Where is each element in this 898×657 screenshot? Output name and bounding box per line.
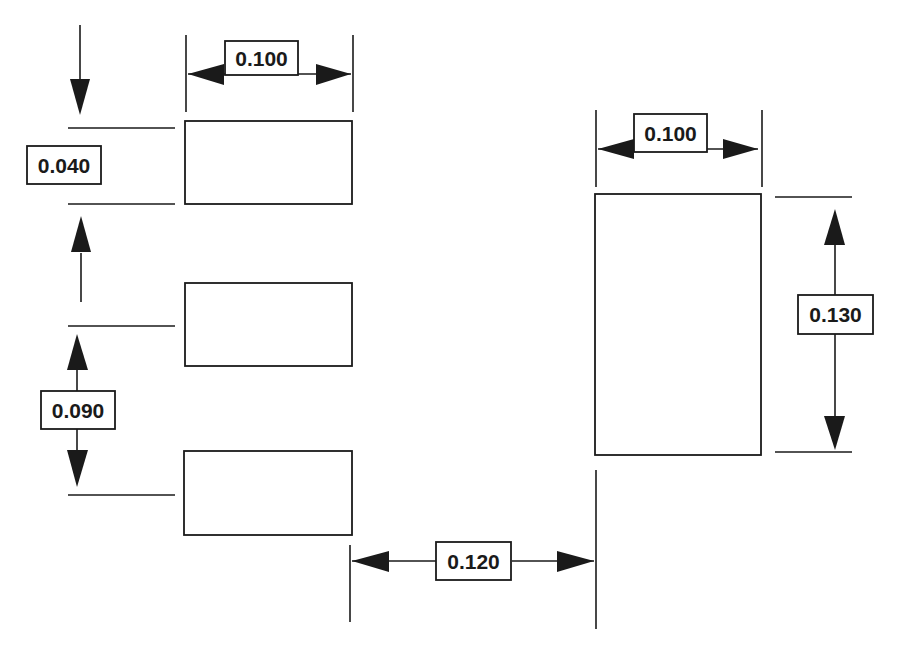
right-pad-height-dimension: 0.130 — [775, 197, 873, 452]
left-pad-3 — [184, 451, 352, 535]
arrow-up-icon — [71, 216, 91, 252]
right-pad-width-label: 0.100 — [644, 122, 697, 145]
arrow-left-icon — [598, 139, 634, 159]
pad-layout-diagram: 0.100 0.040 0.090 0.100 — [0, 0, 898, 657]
arrow-down-icon — [824, 416, 845, 450]
pad-gap-dimension: 0.120 — [350, 470, 596, 629]
left-pad-pitch-label: 0.090 — [52, 399, 105, 422]
arrow-right-icon — [723, 139, 758, 159]
arrow-down-icon — [67, 450, 88, 487]
left-pad-1 — [185, 121, 352, 204]
arrow-left-icon — [188, 64, 224, 85]
left-pad-pitch-dimension: 0.090 — [41, 326, 175, 495]
right-pad-width-dimension: 0.100 — [596, 110, 762, 187]
arrow-up-icon — [67, 334, 88, 370]
arrow-up-icon — [824, 209, 845, 245]
pad-gap-label: 0.120 — [447, 550, 500, 573]
right-pad-large — [595, 194, 761, 455]
left-pad-2 — [185, 283, 352, 366]
left-pad-width-dimension: 0.100 — [186, 35, 353, 112]
left-pad-width-label: 0.100 — [235, 47, 288, 70]
arrow-down-icon — [70, 79, 90, 115]
left-pad-height-label: 0.040 — [38, 154, 91, 177]
right-pad-height-label: 0.130 — [809, 303, 862, 326]
arrow-right-icon — [316, 64, 351, 85]
arrow-left-icon — [352, 551, 389, 572]
left-pad-height-dimension: 0.040 — [27, 25, 175, 302]
arrow-right-icon — [557, 551, 594, 572]
